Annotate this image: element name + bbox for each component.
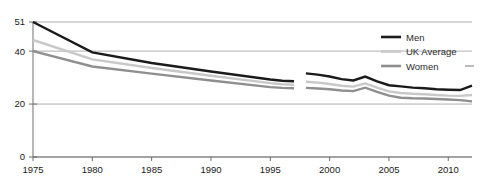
x-tick-labels: 19751980198519901995200020052010 xyxy=(22,164,458,175)
x-tick-label: 2005 xyxy=(378,164,399,175)
x-tick-label: 2000 xyxy=(319,164,340,175)
x-tick-label: 1990 xyxy=(200,164,221,175)
series-line-men xyxy=(306,73,472,90)
y-tick-label: 0 xyxy=(20,151,25,162)
y-tick-labels: 0204051 xyxy=(14,16,25,162)
y-tick-label: 40 xyxy=(14,46,25,57)
y-tick-label: 20 xyxy=(14,98,25,109)
legend-label-women: Women xyxy=(406,61,439,72)
chart-canvas: 0204051 19751980198519901995200020052010… xyxy=(0,0,484,191)
y-axis xyxy=(29,22,37,157)
legend-label-men: Men xyxy=(406,32,424,43)
x-tick-label: 1995 xyxy=(260,164,281,175)
y-tick-label: 51 xyxy=(14,16,25,27)
x-axis xyxy=(33,157,472,161)
x-tick-label: 1975 xyxy=(22,164,43,175)
x-tick-label: 2010 xyxy=(438,164,459,175)
x-tick-label: 1980 xyxy=(82,164,103,175)
chart-legend: MenUK AverageWomen xyxy=(381,32,474,72)
line-chart: 0204051 19751980198519901995200020052010… xyxy=(0,0,484,191)
legend-label-uk-average: UK Average xyxy=(406,46,457,57)
x-tick-label: 1985 xyxy=(141,164,162,175)
